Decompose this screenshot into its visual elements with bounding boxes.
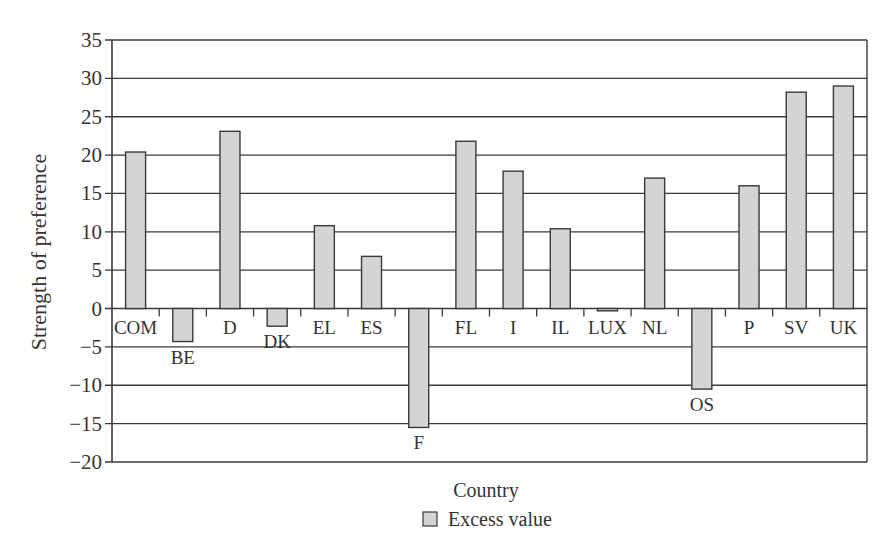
bar-p (739, 186, 759, 309)
category-label-i: I (510, 317, 516, 338)
y-tick-label: 5 (92, 258, 103, 282)
bar-d (220, 131, 240, 308)
category-label-fl: FL (455, 317, 477, 338)
y-tick-label: 30 (81, 66, 102, 90)
y-tick-label: −20 (69, 450, 102, 474)
bars (126, 86, 854, 427)
y-axis-ticks: 35302520151050−5−10−15−20 (69, 28, 102, 474)
category-label-com: COM (114, 317, 157, 338)
y-tick-label: 10 (81, 220, 102, 244)
legend-swatch-excess-value (423, 512, 437, 526)
y-axis-label: Strength of preference (26, 154, 51, 351)
category-label-uk: UK (830, 317, 858, 338)
legend: Excess value (423, 508, 552, 530)
bar-nl (645, 178, 665, 308)
category-label-el: EL (313, 317, 336, 338)
category-label-il: IL (551, 317, 569, 338)
bar-es (362, 256, 382, 308)
category-label-sv: SV (784, 317, 809, 338)
category-label-be: BE (171, 347, 195, 368)
category-label-lux: LUX (588, 317, 627, 338)
y-tick-label: 0 (92, 297, 103, 321)
y-tick-label: 15 (81, 181, 102, 205)
y-tick-label: −5 (80, 335, 102, 359)
bar-f (409, 309, 429, 428)
category-label-dk: DK (263, 331, 291, 352)
y-tick-label: −10 (69, 373, 102, 397)
bar-i (503, 171, 523, 308)
category-label-p: P (744, 317, 755, 338)
bar-el (314, 226, 334, 309)
bar-chart: 35302520151050−5−10−15−20 COMBEDDKELESFF… (0, 0, 893, 551)
bar-fl (456, 141, 476, 308)
bar-lux (597, 309, 617, 311)
category-label-es: ES (360, 317, 382, 338)
y-tick-label: 20 (81, 143, 102, 167)
category-label-f: F (413, 432, 424, 453)
bar-dk (267, 309, 287, 327)
category-label-nl: NL (642, 317, 667, 338)
bar-sv (786, 92, 806, 308)
y-tick-label: 25 (81, 105, 102, 129)
bar-os (692, 309, 712, 390)
y-tick-label: −15 (69, 412, 102, 436)
x-axis-category-ticks (159, 309, 820, 317)
bar-il (550, 229, 570, 309)
category-label-os: OS (690, 394, 714, 415)
x-axis-label: Country (453, 479, 519, 502)
bar-be (173, 309, 193, 342)
legend-label-excess-value: Excess value (448, 508, 552, 530)
bar-com (126, 152, 146, 309)
category-label-d: D (223, 317, 237, 338)
bar-uk (833, 86, 853, 309)
y-tick-label: 35 (81, 28, 102, 52)
